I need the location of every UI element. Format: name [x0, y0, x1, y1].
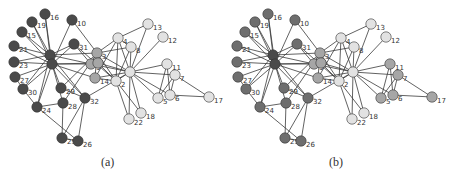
node-label: 24 — [265, 107, 274, 115]
graph-node-21 — [9, 41, 19, 51]
node-label: 2 — [121, 81, 125, 89]
graph-node-17 — [427, 92, 437, 102]
edge — [353, 64, 390, 72]
graph-node-13 — [143, 19, 153, 29]
network-graph-a: 2345678910111213141516171819212223242526… — [0, 0, 225, 155]
graph-node-11 — [162, 59, 172, 69]
graph-node-1 — [125, 67, 135, 77]
node-label: 11 — [395, 64, 404, 72]
edge — [130, 37, 163, 72]
node-label: 28 — [68, 103, 77, 111]
edge — [130, 72, 141, 113]
edge — [116, 81, 141, 113]
graph-node-23 — [9, 57, 19, 67]
graph-node-32 — [80, 93, 90, 103]
graph-node-22 — [347, 114, 357, 124]
node-label: 17 — [214, 97, 223, 105]
graph-node-29 — [56, 83, 66, 93]
graph-node-5 — [376, 93, 386, 103]
edge — [353, 72, 381, 98]
node-label: 3 — [325, 53, 329, 61]
graph-node-8 — [349, 42, 359, 52]
edge — [129, 72, 130, 119]
node-label: 7 — [180, 75, 184, 83]
node-label: 7 — [403, 75, 407, 83]
node-label: 13 — [153, 24, 162, 32]
graph-node-4 — [336, 33, 346, 43]
graph-node-20 — [316, 58, 326, 68]
node-label: 18 — [146, 113, 155, 121]
graph-node-10 — [67, 15, 77, 25]
graph-node-22 — [124, 114, 134, 124]
node-label: 22 — [357, 119, 366, 127]
edge — [352, 72, 353, 119]
node-label: 29 — [289, 88, 298, 96]
graph-node-26 — [296, 136, 306, 146]
node-label: 13 — [376, 24, 385, 32]
graph-node-2 — [111, 76, 121, 86]
node-label: 26 — [306, 141, 315, 149]
node-label: 26 — [83, 141, 92, 149]
graph-node-12 — [381, 32, 391, 42]
graph-node-3 — [315, 48, 325, 58]
graph-node-26 — [73, 136, 83, 146]
graph-node-30 — [241, 84, 251, 94]
node-label: 21 — [242, 46, 251, 54]
graph-node-5 — [153, 93, 163, 103]
graph-node-20 — [93, 58, 103, 68]
graph-node-19 — [27, 17, 37, 27]
graph-node-6 — [388, 90, 398, 100]
graph-node-25 — [280, 133, 290, 143]
node-label: 12 — [391, 37, 400, 45]
node-label: 28 — [291, 103, 300, 111]
node-label: 16 — [50, 14, 59, 22]
graph-node-23 — [232, 57, 242, 67]
node-label: 8 — [359, 47, 363, 55]
node-label: 19 — [37, 22, 46, 30]
node-label: 18 — [369, 113, 378, 121]
node-label: 30 — [28, 89, 37, 97]
graph-node-33 — [268, 50, 278, 60]
node-label: 11 — [172, 64, 181, 72]
node-label: 2 — [344, 81, 348, 89]
node-label: 32 — [90, 98, 99, 106]
caption-a: (a) — [101, 155, 114, 170]
graph-node-27 — [233, 72, 243, 82]
node-label: 31 — [302, 44, 311, 52]
graph-node-28 — [58, 98, 68, 108]
graph-node-13 — [366, 19, 376, 29]
node-label: 32 — [313, 98, 322, 106]
node-label: 16 — [273, 14, 282, 22]
graph-node-8 — [126, 42, 136, 52]
graph-node-31 — [292, 39, 302, 49]
graph-node-4 — [113, 33, 123, 43]
node-label: 15 — [27, 32, 36, 40]
edge — [353, 37, 386, 72]
graph-node-3 — [92, 48, 102, 58]
node-label: 3 — [102, 53, 106, 61]
graph-node-34 — [270, 59, 280, 69]
edge — [130, 72, 158, 98]
node-label: 14 — [100, 78, 109, 86]
node-label: 12 — [168, 37, 177, 45]
panel-b: 2345678910111213141516171819212223242526… — [223, 0, 448, 180]
graph-node-18 — [359, 108, 369, 118]
caption-b: (b) — [329, 155, 343, 170]
graph-node-15 — [17, 27, 27, 37]
node-label: 14 — [323, 78, 332, 86]
edge — [14, 55, 50, 62]
graph-node-17 — [204, 92, 214, 102]
graph-node-12 — [158, 32, 168, 42]
node-label: 31 — [79, 44, 88, 52]
graph-node-15 — [240, 27, 250, 37]
node-label: 10 — [300, 20, 309, 28]
node-label: 23 — [242, 62, 251, 70]
graph-node-21 — [232, 41, 242, 51]
node-label: 6 — [175, 95, 180, 103]
graph-node-29 — [279, 83, 289, 93]
node-label: 23 — [19, 62, 28, 70]
graph-node-1 — [348, 67, 358, 77]
graph-node-16 — [40, 9, 50, 19]
node-label: 29 — [66, 88, 75, 96]
graph-node-31 — [69, 39, 79, 49]
